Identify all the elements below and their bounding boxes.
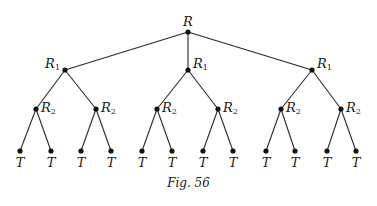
leaf-label: T <box>107 155 117 170</box>
edge-r1-r2-3 <box>188 70 218 109</box>
r2-label: R2 <box>40 100 56 116</box>
leaf-node <box>139 148 144 153</box>
edge-r2-leaf-0 <box>20 109 36 151</box>
leaf-label: T <box>77 155 87 170</box>
r1-node <box>185 67 190 72</box>
root-label: R <box>182 14 193 29</box>
leaf-node <box>292 148 297 153</box>
leaf-node <box>108 148 113 153</box>
leaf-label: T <box>262 155 272 170</box>
r1-label: R1 <box>44 56 60 72</box>
r2-node <box>33 106 38 111</box>
edge-r2-leaf-9 <box>281 109 295 151</box>
r2-node <box>215 106 220 111</box>
r2-node <box>154 106 159 111</box>
r1-node <box>309 67 314 72</box>
leaf-node <box>78 148 83 153</box>
edge-r2-leaf-8 <box>266 109 281 151</box>
edge-r2-leaf-11 <box>341 109 356 151</box>
edge-r2-leaf-2 <box>81 109 96 151</box>
leaf-label: T <box>323 155 333 170</box>
root-node <box>185 29 190 34</box>
leaf-node <box>230 148 235 153</box>
r2-node <box>93 106 98 111</box>
r2-label: R2 <box>161 100 177 116</box>
tree-labels: RR1R1R1R2R2R2R2R2R2TTTTTTTTTTTT <box>16 14 362 170</box>
leaf-node <box>324 148 329 153</box>
edge-r1-r2-1 <box>65 70 96 109</box>
leaf-label: T <box>168 155 178 170</box>
leaf-label: T <box>47 155 57 170</box>
leaf-label: T <box>16 155 26 170</box>
r2-label: R2 <box>222 100 238 116</box>
edge-r2-leaf-5 <box>157 109 172 151</box>
leaf-node <box>169 148 174 153</box>
r2-node <box>338 106 343 111</box>
tree-edges <box>20 32 356 151</box>
leaf-label: T <box>199 155 209 170</box>
leaf-node <box>17 148 22 153</box>
leaf-node <box>353 148 358 153</box>
leaf-node <box>200 148 205 153</box>
leaf-label: T <box>138 155 148 170</box>
leaf-label: T <box>291 155 301 170</box>
r2-node <box>278 106 283 111</box>
leaf-node <box>48 148 53 153</box>
r2-label: R2 <box>100 100 116 116</box>
edge-r2-leaf-6 <box>203 109 218 151</box>
r2-label: R2 <box>285 100 301 116</box>
edge-r2-leaf-3 <box>96 109 111 151</box>
figure-caption: Fig. 56 <box>0 176 377 190</box>
edge-r2-leaf-7 <box>218 109 233 151</box>
leaf-label: T <box>352 155 362 170</box>
edge-r2-leaf-4 <box>142 109 157 151</box>
edge-r2-leaf-1 <box>36 109 51 151</box>
leaf-label: T <box>229 155 239 170</box>
r2-label: R2 <box>345 100 361 116</box>
r1-label: R1 <box>316 56 332 72</box>
leaf-node <box>263 148 268 153</box>
edge-root-r1-0 <box>65 32 188 70</box>
edge-r1-r2-5 <box>312 70 341 109</box>
edge-r2-leaf-10 <box>327 109 341 151</box>
r1-node <box>62 67 67 72</box>
r1-label: R1 <box>192 56 208 72</box>
